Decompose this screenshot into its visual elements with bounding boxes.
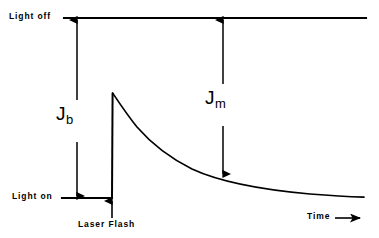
laser-flash-kinetics-figure: Light off Light on Laser Flash Time Jb J… <box>0 0 379 238</box>
laser-flash-label: Laser Flash <box>78 220 135 229</box>
jb-subscript: b <box>66 112 73 127</box>
jm-annotation-label: Jm <box>205 88 225 107</box>
light-off-label: Light off <box>9 12 51 21</box>
jb-symbol: J <box>56 103 66 124</box>
light-on-label: Light on <box>12 192 53 201</box>
decay-curve <box>113 93 364 197</box>
jm-subscript: m <box>215 96 226 111</box>
time-axis-label: Time <box>307 212 330 221</box>
jb-annotation-label: Jb <box>56 104 73 123</box>
signal-rise-edge <box>112 93 113 198</box>
jm-symbol: J <box>205 87 215 108</box>
